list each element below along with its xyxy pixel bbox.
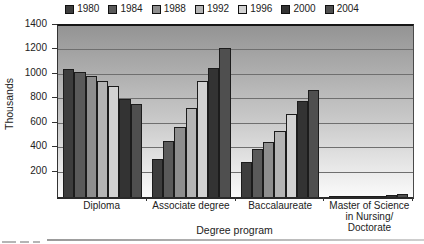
- bar-1980: [241, 162, 252, 197]
- bar-1984: [163, 141, 174, 197]
- legend-label: 1980: [77, 4, 99, 14]
- bar-group-baccalaureate: [236, 26, 325, 197]
- legend-item-2000: 2000: [281, 4, 315, 14]
- bar-group-master-of-science-in-nursing-doctorate: [324, 26, 413, 197]
- y-tick-label-1400: 1400: [25, 19, 47, 29]
- legend-swatch-icon: [108, 5, 117, 14]
- bar-2004: [219, 48, 230, 197]
- bar-1980: [329, 196, 340, 197]
- y-tick-label-400: 400: [30, 141, 47, 151]
- cropped-caption-fragment: [2, 241, 16, 243]
- bar-group-associate-degree: [147, 26, 236, 197]
- bar-1988: [263, 142, 274, 197]
- y-tick-label-800: 800: [30, 92, 47, 102]
- chart-legend: 1980198419881992199620002004: [0, 2, 424, 16]
- bar-1988: [86, 76, 97, 197]
- bar-2000: [386, 195, 397, 197]
- bar-1996: [286, 114, 297, 197]
- bar-2004: [397, 194, 408, 197]
- bar-1992: [363, 196, 374, 197]
- bar-group-diploma: [58, 26, 147, 197]
- legend-label: 1996: [250, 4, 272, 14]
- bar-1992: [186, 108, 197, 197]
- y-tick-label-600: 600: [30, 117, 47, 127]
- legend-item-1996: 1996: [238, 4, 272, 14]
- legend-swatch-icon: [238, 5, 247, 14]
- bar-1984: [74, 72, 85, 197]
- plot-area: [57, 24, 414, 199]
- bar-2000: [208, 68, 219, 197]
- caption-rule: [47, 239, 424, 241]
- legend-item-1992: 1992: [195, 4, 229, 14]
- legend-label: 1988: [164, 4, 186, 14]
- cropped-caption-strip: [0, 238, 424, 244]
- legend-swatch-icon: [152, 5, 161, 14]
- x-boundary-tick: [146, 197, 147, 201]
- legend-swatch-icon: [195, 5, 204, 14]
- bar-2000: [119, 99, 130, 197]
- x-boundary-tick: [323, 197, 324, 201]
- y-tick-label-200: 200: [30, 166, 47, 176]
- legend-item-1984: 1984: [108, 4, 142, 14]
- bar-2000: [297, 101, 308, 197]
- bar-chart-figure: 1980198419881992199620002004 20040060080…: [0, 0, 424, 244]
- legend-label: 2004: [337, 4, 359, 14]
- bar-2004: [131, 104, 142, 197]
- bar-1980: [63, 69, 74, 197]
- bar-1996: [374, 196, 385, 197]
- y-tick-label-1000: 1000: [25, 68, 47, 78]
- legend-item-1988: 1988: [152, 4, 186, 14]
- x-boundary-tick: [412, 197, 413, 201]
- x-boundary-tick: [235, 197, 236, 201]
- bar-1988: [174, 127, 185, 197]
- legend-item-2004: 2004: [325, 4, 359, 14]
- legend-label: 1992: [207, 4, 229, 14]
- legend-item-1980: 1980: [65, 4, 99, 14]
- bar-1984: [252, 149, 263, 197]
- legend-label: 1984: [120, 4, 142, 14]
- bar-2004: [308, 90, 319, 197]
- bar-1980: [152, 159, 163, 197]
- bar-1996: [197, 81, 208, 197]
- bar-1984: [341, 196, 352, 197]
- bar-1992: [274, 131, 285, 197]
- bar-1996: [108, 86, 119, 197]
- cropped-caption-fragment: [20, 241, 29, 243]
- legend-swatch-icon: [65, 5, 74, 14]
- legend-swatch-icon: [325, 5, 334, 14]
- bar-1988: [352, 196, 363, 197]
- legend-swatch-icon: [281, 5, 290, 14]
- cropped-caption-fragment: [33, 241, 40, 243]
- legend-label: 2000: [293, 4, 315, 14]
- bars-row: [58, 26, 413, 197]
- bar-1992: [97, 81, 108, 197]
- y-tick-label-1200: 1200: [25, 43, 47, 53]
- y-axis-title: Thousands: [3, 64, 15, 144]
- x-axis-title: Degree program: [57, 224, 412, 236]
